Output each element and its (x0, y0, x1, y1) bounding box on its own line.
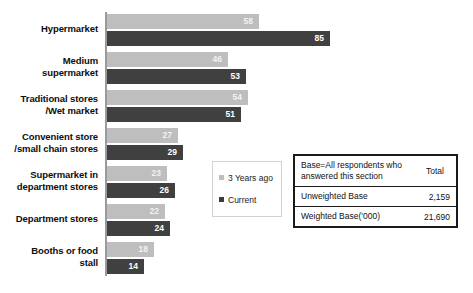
bar-current: 26 (107, 183, 175, 198)
base-description-line1: Base=All respondents who (301, 160, 402, 170)
bar-prev: 23 (107, 166, 167, 181)
category-label-line1: Department stores (16, 213, 98, 224)
bar-group: Mediumsupermarket4653 (0, 52, 473, 84)
legend-swatch-prev-icon (219, 175, 224, 180)
bar-value-label: 53 (231, 69, 240, 84)
weighted-base-label: Weighted Base('000) (295, 207, 418, 227)
bar-current: 53 (107, 69, 246, 84)
bar-chart-figure: Hypermarket5885Mediumsupermarket4653Trad… (0, 0, 473, 293)
bar-value-label: 18 (139, 242, 148, 257)
bar-value-label: 14 (129, 259, 138, 274)
bar-value-label: 24 (155, 221, 164, 236)
chart-legend: 3 Years ago Current (212, 161, 282, 217)
table-row: Weighted Base('000) 21,690 (295, 207, 456, 227)
legend-swatch-current-icon (219, 197, 224, 202)
category-label: Convenient store/small chain stores (0, 131, 98, 154)
category-label: Booths or foodstall (0, 245, 98, 268)
category-label: Mediumsupermarket (0, 55, 98, 78)
legend-label-prev: 3 Years ago (228, 173, 273, 183)
bar-prev: 27 (107, 128, 178, 143)
category-label: Traditional stores/Wet market (0, 93, 98, 116)
bar-current: 51 (107, 107, 241, 122)
bar-prev: 18 (107, 242, 154, 257)
category-label-line1: Supermarket in (30, 169, 98, 180)
base-description-line2: answered this section (301, 171, 383, 181)
bar-value-label: 27 (163, 128, 172, 143)
category-label-line2: /Wet market (45, 105, 98, 116)
category-label-line1: Medium (63, 55, 98, 66)
bar-value-label: 85 (315, 31, 324, 46)
category-label: Supermarket indepartment stores (0, 169, 98, 192)
category-label-line2: supermarket (42, 67, 98, 78)
bar-value-label: 54 (233, 90, 242, 105)
category-label: Hypermarket (0, 23, 98, 35)
bar-prev: 22 (107, 204, 165, 219)
bar-prev: 46 (107, 52, 228, 67)
bar-value-label: 29 (168, 145, 177, 160)
base-table: Base=All respondents who answered this s… (293, 154, 458, 228)
category-label-line2: stall (79, 257, 98, 268)
bar-value-label: 58 (244, 14, 253, 29)
category-label-line1: Traditional stores (21, 93, 98, 104)
bar-value-label: 22 (150, 204, 159, 219)
bar-group: Booths or foodstall1814 (0, 242, 473, 274)
category-label-line2: department stores (17, 181, 98, 192)
category-label: Department stores (0, 213, 98, 225)
plot-area: Hypermarket5885Mediumsupermarket4653Trad… (0, 6, 473, 278)
category-label-line1: Hypermarket (41, 23, 98, 34)
bar-prev: 58 (107, 14, 259, 29)
category-label-line2: /small chain stores (14, 143, 98, 154)
legend-item-current: Current (219, 195, 256, 205)
legend-label-current: Current (228, 195, 256, 205)
weighted-base-value: 21,690 (418, 207, 456, 227)
bar-group: Hypermarket5885 (0, 14, 473, 46)
bar-group: Traditional stores/Wet market5451 (0, 90, 473, 122)
unweighted-base-label: Unweighted Base (295, 187, 418, 207)
bar-current: 29 (107, 145, 183, 160)
bar-value-label: 51 (226, 107, 235, 122)
table-header-row: Base=All respondents who answered this s… (295, 156, 456, 187)
unweighted-base-value: 2,159 (418, 187, 456, 207)
bar-current: 14 (107, 259, 144, 274)
category-label-line1: Booths or food (31, 245, 98, 256)
legend-item-prev: 3 Years ago (219, 173, 273, 183)
bar-value-label: 26 (160, 183, 169, 198)
bar-value-label: 46 (213, 52, 222, 67)
base-description-cell: Base=All respondents who answered this s… (295, 156, 418, 187)
base-table-grid: Base=All respondents who answered this s… (295, 156, 456, 226)
bar-current: 24 (107, 221, 170, 236)
bar-prev: 54 (107, 90, 248, 105)
total-column-header: Total (418, 156, 456, 187)
table-row: Unweighted Base 2,159 (295, 187, 456, 207)
bar-value-label: 23 (152, 166, 161, 181)
bar-current: 85 (107, 31, 330, 46)
category-label-line1: Convenient store (22, 131, 98, 142)
